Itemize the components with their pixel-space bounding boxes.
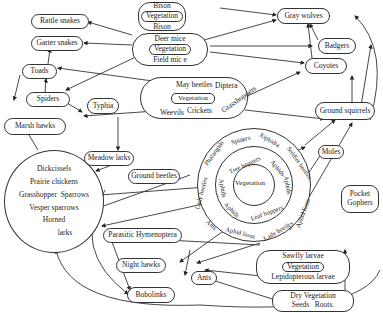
lepidopterous-larvae-label: Lepidopterous larvae: [271, 273, 335, 282]
pocket-gophers-node: Pocket Gophers: [341, 185, 379, 213]
coyotes-node: Coyotes: [305, 58, 347, 74]
gray-wolves-label: Gray wolves: [284, 12, 322, 21]
prairie-chickens-label: Prairie chickens: [30, 178, 78, 187]
vegetation-label: Vegetation: [235, 180, 265, 187]
sparrows-word: Sparrows: [61, 190, 89, 199]
marsh-hawks-node: Marsh hawks: [4, 118, 66, 135]
moles-node: Moles: [318, 145, 344, 159]
larks-label: larks: [58, 229, 73, 238]
night-hawks-node: Night hawks: [116, 258, 166, 273]
vegetation-label: Vegetation: [141, 11, 183, 22]
sawfly-group: Sawfly larvae Vegetation Lepidopterous l…: [256, 250, 350, 284]
meadow-larks-node: Meadow larks: [84, 151, 134, 166]
vegetation-label: Vegetation: [178, 94, 208, 102]
rattle-snakes-node: Rattle snakes: [31, 14, 89, 29]
rattle-snakes-label: Rattle snakes: [40, 17, 80, 26]
vegetation-label: Vegetation: [149, 44, 191, 55]
dry-vegetation-group: Dry Vegetation Seeds Roots.: [272, 290, 354, 312]
bison-label-2: Bison: [153, 23, 171, 32]
bird-group: Dickcissels Prairie chickens Grasshopper…: [4, 150, 104, 253]
crickets-label: Crickets: [187, 107, 212, 115]
field-mice-label: Field mic e: [153, 56, 187, 65]
typhia-node: Typhia: [87, 98, 119, 114]
seeds-roots-label: Seeds Roots.: [292, 301, 335, 310]
ants-node: Ants: [191, 271, 217, 285]
grasshopper-sparrows-label: Grasshopper Sparrows: [19, 191, 89, 200]
meadow-larks-label: Meadow larks: [88, 154, 131, 163]
gray-wolves-node: Gray wolves: [277, 8, 330, 24]
badgers-node: Badgers: [318, 38, 356, 54]
weevils-label: Weevils: [160, 109, 184, 117]
marsh-hawks-label: Marsh hawks: [15, 122, 55, 131]
ground-beetles-node: Ground beetles: [128, 169, 180, 184]
mice-group: Deer mice Vegetation Field mic e: [132, 33, 208, 66]
grasshopper-word: Grasshopper: [19, 190, 57, 199]
deer-mice-label: Deer mice: [154, 35, 185, 44]
garter-snakes-label: Garter snakes: [36, 39, 77, 48]
horned-label: Horned: [43, 216, 66, 225]
ground-squirrels-label: Ground squirrels: [320, 107, 371, 116]
spiders-node: Spiders: [26, 92, 70, 107]
roots-word: Roots.: [315, 300, 334, 309]
vegetation-label: Vegetation: [282, 262, 324, 273]
ants-label: Ants: [197, 274, 211, 283]
spiders-label: Spiders: [37, 95, 60, 104]
bison-label: Bison: [153, 2, 171, 11]
bobolinks-node: Bobolinks: [127, 287, 175, 303]
toads-label: Toads: [31, 67, 49, 76]
garter-snakes-node: Garter snakes: [31, 36, 83, 51]
gophers-label: Gophers: [347, 199, 372, 208]
insect-vegetation: Vegetation: [171, 93, 215, 104]
may-beetles-label: May beetles: [176, 81, 212, 89]
diptera-label: Diptera: [215, 82, 238, 90]
parasitic-hymenoptera-node: Parasitic Hymenoptera: [103, 228, 182, 243]
night-hawks-label: Night hawks: [122, 261, 160, 270]
vesper-sparrows-label: Vesper sparrows: [29, 204, 78, 213]
bobolinks-label: Bobolinks: [136, 291, 167, 300]
bison-group: Bison Vegetation Bison: [138, 2, 186, 31]
badgers-label: Badgers: [325, 42, 350, 51]
moles-label: Moles: [322, 148, 341, 157]
sawfly-larvae-label: Sawfly larvae: [282, 252, 323, 261]
typhia-label: Typhia: [93, 102, 114, 111]
toads-node: Toads: [22, 64, 57, 79]
coyotes-label: Coyotes: [314, 62, 339, 71]
seeds-word: Seeds: [292, 300, 310, 309]
ground-beetles-label: Ground beetles: [131, 172, 177, 181]
ground-squirrels-node: Ground squirrels: [315, 102, 375, 120]
parasitic-hymenoptera-label: Parasitic Hymenoptera: [108, 231, 177, 240]
dickcissels-label: Dickcissels: [37, 165, 71, 174]
